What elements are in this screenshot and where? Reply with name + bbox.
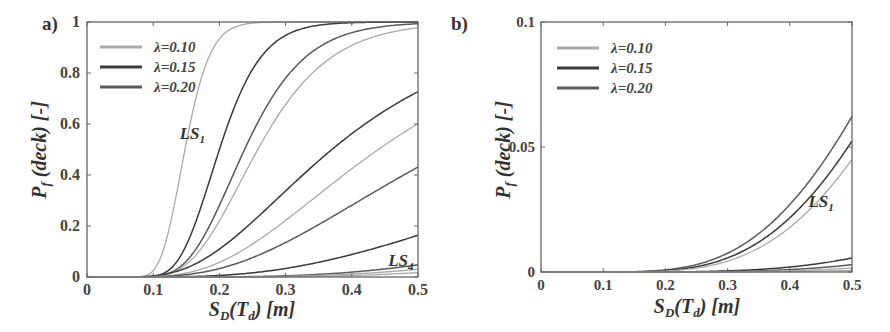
y-axis-label-b: Pf (deck) [-]	[492, 101, 517, 200]
x-tick-label: 0.3	[718, 277, 737, 293]
y-tick-label: 0.6	[60, 115, 80, 132]
annotations-b: LS1	[807, 192, 833, 213]
legend-label: λ=0.10	[153, 39, 196, 55]
x-tick-label: 0.4	[342, 281, 362, 298]
chart-panel-b: b) 00.10.20.30.40.500.050.1 λ=0.10λ=0.15…	[445, 0, 890, 332]
legend-label: λ=0.20	[153, 79, 196, 95]
legend-a: λ=0.10λ=0.15λ=0.20	[100, 39, 196, 95]
y-tick-label: 0.4	[60, 166, 80, 183]
ticks-a: 00.10.20.30.40.500.20.40.60.81	[60, 13, 428, 298]
x-axis-label-b: SD(Td) [m]	[654, 295, 741, 320]
x-tick-label: 0.5	[843, 277, 862, 293]
annotations-a: LS1LS4	[179, 124, 414, 271]
legend-b: λ=0.10λ=0.15λ=0.20	[557, 40, 653, 96]
x-tick-label: 0	[537, 277, 545, 293]
curve-ls3-0-15	[87, 92, 418, 277]
annotation-ls1: LS1	[807, 192, 833, 213]
x-tick-label: 0.5	[408, 281, 428, 298]
y-tick-label: 0.8	[60, 64, 80, 81]
annotation-ls1: LS1	[179, 124, 205, 145]
chart-panel-a: a) 00.10.20.30.40.500.20.40.60.81 λ=0.10…	[0, 0, 445, 332]
legend-label: λ=0.15	[153, 59, 196, 75]
curves-b	[541, 116, 852, 272]
curve-ls1-0-10	[87, 22, 418, 277]
x-tick-label: 0.2	[209, 281, 229, 298]
x-tick-label: 0.1	[143, 281, 163, 298]
panel-label-a: a)	[42, 13, 58, 35]
legend-label: λ=0.10	[610, 40, 653, 56]
y-tick-label: 0	[72, 268, 80, 285]
x-axis-label-a: SD(Td) [m]	[209, 298, 296, 323]
annotation-ls4: LS4	[387, 251, 414, 272]
y-axis-label-a: Pf (deck) [-]	[28, 101, 53, 200]
curve-ls1-0-15	[87, 22, 418, 277]
curve-ls2-0-10	[87, 28, 418, 277]
x-tick-label: 0	[83, 281, 91, 298]
y-tick-label: 0.2	[60, 217, 80, 234]
ticks-b: 00.10.20.30.40.500.050.1	[509, 14, 862, 293]
plot-area-b: 00.10.20.30.40.500.050.1	[509, 14, 862, 293]
curve-ls3-0-10	[87, 124, 418, 277]
x-tick-label: 0.2	[656, 277, 675, 293]
x-tick-label: 0.1	[594, 277, 613, 293]
curve-ls1-0-15	[541, 141, 852, 272]
curve-ls1-0-10	[541, 159, 852, 272]
plot-area-a: 00.10.20.30.40.500.20.40.60.81	[60, 13, 428, 298]
y-tick-label: 0.1	[516, 14, 535, 30]
x-tick-label: 0.3	[276, 281, 296, 298]
axes-box-a	[87, 22, 418, 277]
y-tick-label: 1	[72, 13, 80, 30]
curves-a	[87, 22, 418, 277]
y-tick-label: 0	[528, 264, 536, 280]
curve-ls1-0-20	[541, 116, 852, 272]
panel-label-b: b)	[451, 13, 468, 35]
legend-label: λ=0.15	[610, 60, 653, 76]
legend-label: λ=0.20	[610, 80, 653, 96]
x-tick-label: 0.4	[780, 277, 799, 293]
curve-ls1-0-20	[87, 24, 418, 277]
axes-box-b	[541, 22, 852, 272]
